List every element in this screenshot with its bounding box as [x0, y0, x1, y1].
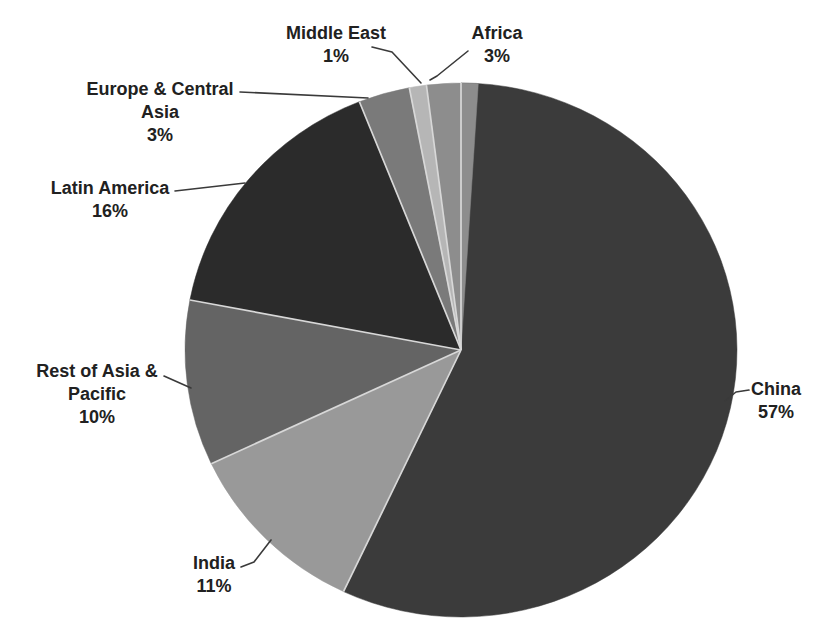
slice-label-middle-east: Middle East1% — [261, 22, 411, 68]
slice-label-europe-central-asia: Europe & Central Asia3% — [72, 78, 248, 147]
slice-label-percent: 10% — [21, 406, 173, 429]
slice-label-percent: 3% — [72, 124, 248, 147]
pie-chart-figure: China57%India11%Rest of Asia & Pacific10… — [0, 0, 836, 640]
slice-label-percent: 11% — [159, 575, 269, 598]
slice-label-india: India11% — [159, 552, 269, 598]
slice-label-percent: 3% — [442, 45, 552, 68]
slice-label-text: Europe & Central Asia — [86, 79, 233, 122]
slice-label-africa: Africa3% — [442, 22, 552, 68]
slice-label-rest-of-asia-pacific: Rest of Asia & Pacific10% — [21, 360, 173, 429]
leader-line-europe-central-asia — [240, 92, 368, 98]
slice-label-text: India — [193, 553, 235, 573]
slice-label-china: China57% — [721, 378, 831, 424]
slice-label-percent: 16% — [24, 200, 196, 223]
slice-label-text: Rest of Asia & Pacific — [36, 361, 157, 404]
slice-label-text: Latin America — [51, 178, 169, 198]
slice-label-text: Middle East — [286, 23, 386, 43]
slice-label-latin-america: Latin America16% — [24, 177, 196, 223]
slice-label-percent: 57% — [721, 401, 831, 424]
slice-label-text: Africa — [471, 23, 522, 43]
slice-label-percent: 1% — [261, 45, 411, 68]
slice-label-text: China — [751, 379, 801, 399]
